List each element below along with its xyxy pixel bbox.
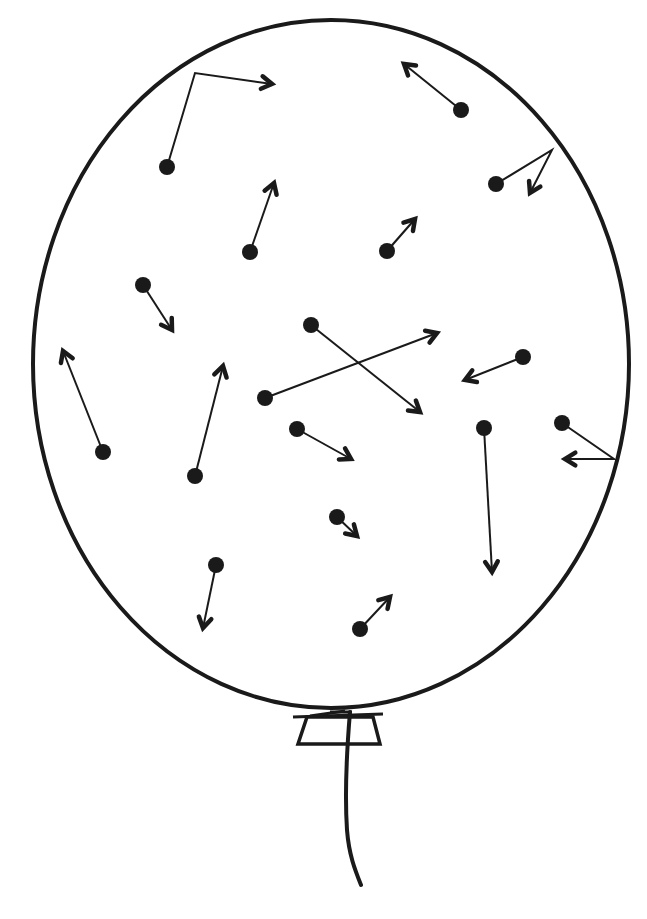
velocity-arrow-shaft xyxy=(465,357,523,380)
particle xyxy=(289,421,351,460)
particle xyxy=(554,415,614,465)
particle xyxy=(61,351,111,460)
particle-dot xyxy=(289,421,305,437)
particle-dot xyxy=(303,317,319,333)
velocity-arrow-shaft xyxy=(250,183,274,252)
particle-dot xyxy=(554,415,570,431)
velocity-arrow-shaft xyxy=(496,150,552,193)
particle-dot xyxy=(208,557,224,573)
particle xyxy=(488,150,552,193)
velocity-arrow-shaft xyxy=(167,73,272,167)
particle-dot xyxy=(242,244,258,260)
velocity-arrow-shaft xyxy=(265,333,437,398)
particle-dot xyxy=(159,159,175,175)
particle xyxy=(199,557,224,628)
particle-dot xyxy=(329,509,345,525)
particle-dot xyxy=(257,390,273,406)
particle xyxy=(257,331,437,406)
balloon xyxy=(33,20,629,708)
diagram-canvas xyxy=(0,0,647,919)
particle xyxy=(159,73,272,175)
particle-dot xyxy=(187,468,203,484)
particle xyxy=(465,349,531,382)
particle xyxy=(329,509,357,536)
velocity-arrow-shaft xyxy=(311,325,420,412)
particle xyxy=(379,219,415,259)
particle xyxy=(187,366,227,484)
particle-dot xyxy=(95,444,111,460)
velocity-arrow-shaft xyxy=(195,366,223,476)
particle-dot xyxy=(488,176,504,192)
particle-dot xyxy=(379,243,395,259)
balloon-outline xyxy=(33,20,629,708)
particle-dot xyxy=(515,349,531,365)
particle xyxy=(303,317,420,412)
particle-dot xyxy=(135,277,151,293)
particle xyxy=(404,64,469,118)
particle xyxy=(352,597,390,637)
knot-trapezoid xyxy=(298,717,380,744)
balloon-knot xyxy=(293,711,383,744)
particle xyxy=(476,420,498,572)
particle xyxy=(242,183,277,260)
velocity-arrow-shaft xyxy=(297,429,351,459)
string-line xyxy=(346,712,361,885)
velocity-arrow-shaft xyxy=(143,285,172,330)
velocity-arrow-shaft xyxy=(404,64,461,110)
balloon-gas-particles-diagram xyxy=(0,0,647,919)
particle-dot xyxy=(352,621,368,637)
balloon-string xyxy=(346,712,361,885)
particle-dot xyxy=(476,420,492,436)
velocity-arrow-shaft xyxy=(63,351,103,452)
particle-dot xyxy=(453,102,469,118)
gas-particles xyxy=(61,64,614,637)
velocity-arrow-shaft xyxy=(484,428,492,572)
particle xyxy=(135,277,172,330)
